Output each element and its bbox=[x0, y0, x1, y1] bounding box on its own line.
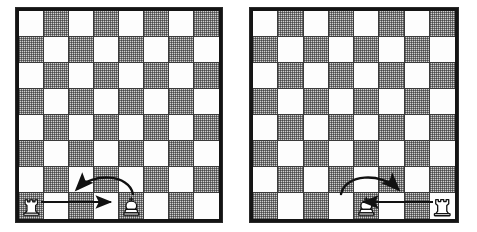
square-e7[interactable] bbox=[119, 37, 144, 63]
square-h2[interactable] bbox=[430, 167, 455, 193]
square-f7[interactable] bbox=[144, 37, 169, 63]
square-h8[interactable] bbox=[430, 11, 455, 37]
square-d5[interactable] bbox=[329, 89, 354, 115]
square-b6[interactable] bbox=[278, 63, 303, 89]
square-g8[interactable] bbox=[405, 11, 430, 37]
square-g4[interactable] bbox=[405, 115, 430, 141]
square-g1[interactable] bbox=[169, 193, 194, 219]
square-b7[interactable] bbox=[278, 37, 303, 63]
square-d4[interactable] bbox=[94, 115, 119, 141]
square-h4[interactable] bbox=[194, 115, 219, 141]
square-h4[interactable] bbox=[430, 115, 455, 141]
square-g7[interactable] bbox=[169, 37, 194, 63]
square-g7[interactable] bbox=[405, 37, 430, 63]
square-g5[interactable] bbox=[405, 89, 430, 115]
square-c5[interactable] bbox=[69, 89, 94, 115]
square-h3[interactable] bbox=[430, 141, 455, 167]
square-c8[interactable] bbox=[69, 11, 94, 37]
square-a7[interactable] bbox=[19, 37, 44, 63]
square-d4[interactable] bbox=[329, 115, 354, 141]
square-e8[interactable] bbox=[354, 11, 379, 37]
square-h1[interactable] bbox=[430, 193, 455, 219]
square-f6[interactable] bbox=[379, 63, 404, 89]
square-g8[interactable] bbox=[169, 11, 194, 37]
square-f5[interactable] bbox=[379, 89, 404, 115]
square-a3[interactable] bbox=[19, 141, 44, 167]
square-e8[interactable] bbox=[119, 11, 144, 37]
square-d2[interactable] bbox=[94, 167, 119, 193]
square-e1[interactable] bbox=[354, 193, 379, 219]
square-g1[interactable] bbox=[405, 193, 430, 219]
square-f1[interactable] bbox=[144, 193, 169, 219]
square-h6[interactable] bbox=[194, 63, 219, 89]
square-a5[interactable] bbox=[253, 89, 278, 115]
square-b2[interactable] bbox=[44, 167, 69, 193]
square-g6[interactable] bbox=[169, 63, 194, 89]
square-d8[interactable] bbox=[94, 11, 119, 37]
square-e3[interactable] bbox=[119, 141, 144, 167]
square-f3[interactable] bbox=[144, 141, 169, 167]
square-c1[interactable] bbox=[69, 193, 94, 219]
square-a8[interactable] bbox=[19, 11, 44, 37]
square-e2[interactable] bbox=[119, 167, 144, 193]
square-a4[interactable] bbox=[253, 115, 278, 141]
square-c3[interactable] bbox=[69, 141, 94, 167]
square-e2[interactable] bbox=[354, 167, 379, 193]
square-h5[interactable] bbox=[194, 89, 219, 115]
square-d3[interactable] bbox=[329, 141, 354, 167]
square-d2[interactable] bbox=[329, 167, 354, 193]
square-a4[interactable] bbox=[19, 115, 44, 141]
square-c2[interactable] bbox=[69, 167, 94, 193]
square-h8[interactable] bbox=[194, 11, 219, 37]
square-g3[interactable] bbox=[169, 141, 194, 167]
square-b3[interactable] bbox=[44, 141, 69, 167]
square-c5[interactable] bbox=[304, 89, 329, 115]
square-a2[interactable] bbox=[19, 167, 44, 193]
square-a3[interactable] bbox=[253, 141, 278, 167]
square-h5[interactable] bbox=[430, 89, 455, 115]
square-b8[interactable] bbox=[44, 11, 69, 37]
square-g2[interactable] bbox=[405, 167, 430, 193]
square-f4[interactable] bbox=[379, 115, 404, 141]
square-d6[interactable] bbox=[329, 63, 354, 89]
square-d1[interactable] bbox=[94, 193, 119, 219]
square-c4[interactable] bbox=[69, 115, 94, 141]
square-h2[interactable] bbox=[194, 167, 219, 193]
square-e6[interactable] bbox=[119, 63, 144, 89]
square-e7[interactable] bbox=[354, 37, 379, 63]
square-g3[interactable] bbox=[405, 141, 430, 167]
square-f6[interactable] bbox=[144, 63, 169, 89]
square-b3[interactable] bbox=[278, 141, 303, 167]
square-b6[interactable] bbox=[44, 63, 69, 89]
square-b4[interactable] bbox=[278, 115, 303, 141]
square-d6[interactable] bbox=[94, 63, 119, 89]
square-d7[interactable] bbox=[94, 37, 119, 63]
square-h7[interactable] bbox=[430, 37, 455, 63]
square-e1[interactable] bbox=[119, 193, 144, 219]
square-e5[interactable] bbox=[119, 89, 144, 115]
square-c6[interactable] bbox=[69, 63, 94, 89]
square-e4[interactable] bbox=[119, 115, 144, 141]
square-d1[interactable] bbox=[329, 193, 354, 219]
square-e6[interactable] bbox=[354, 63, 379, 89]
square-f7[interactable] bbox=[379, 37, 404, 63]
square-c7[interactable] bbox=[304, 37, 329, 63]
square-f2[interactable] bbox=[144, 167, 169, 193]
square-g2[interactable] bbox=[169, 167, 194, 193]
square-a1[interactable] bbox=[253, 193, 278, 219]
square-e5[interactable] bbox=[354, 89, 379, 115]
square-c3[interactable] bbox=[304, 141, 329, 167]
square-e3[interactable] bbox=[354, 141, 379, 167]
square-h3[interactable] bbox=[194, 141, 219, 167]
square-b2[interactable] bbox=[278, 167, 303, 193]
square-c8[interactable] bbox=[304, 11, 329, 37]
square-d7[interactable] bbox=[329, 37, 354, 63]
square-c6[interactable] bbox=[304, 63, 329, 89]
square-d3[interactable] bbox=[94, 141, 119, 167]
square-c7[interactable] bbox=[69, 37, 94, 63]
square-f2[interactable] bbox=[379, 167, 404, 193]
square-b7[interactable] bbox=[44, 37, 69, 63]
square-e4[interactable] bbox=[354, 115, 379, 141]
square-c2[interactable] bbox=[304, 167, 329, 193]
square-b5[interactable] bbox=[278, 89, 303, 115]
